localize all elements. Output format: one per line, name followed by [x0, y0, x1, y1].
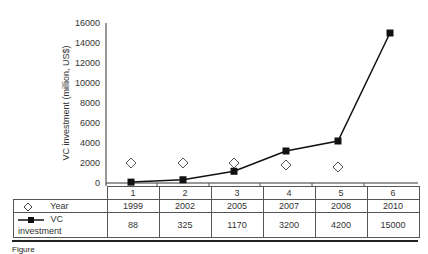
y-axis-ticks: 0200040006000800010000120001400016000: [75, 18, 100, 186]
y-tick-label: 8000: [80, 98, 100, 108]
open-diamond-icon: [18, 202, 48, 212]
table-cell: 4200: [315, 213, 367, 238]
square-marker: [387, 30, 394, 37]
diamond-marker: [281, 160, 291, 170]
y-tick-label: 10000: [75, 78, 100, 88]
square-marker: [283, 148, 290, 155]
data-table: 1 2 3 4 5 6 Year 1999 2002 2005 2007 200…: [13, 186, 420, 238]
vc-investment-line: [131, 33, 390, 182]
y-tick-label: 6000: [80, 118, 100, 128]
table-header-row: 1 2 3 4 5 6: [14, 187, 420, 200]
square-marker: [128, 179, 135, 186]
diamond-marker: [126, 158, 136, 168]
table-cell: 88: [107, 213, 159, 238]
y-tick-label: 0: [95, 178, 100, 186]
table-header-cell: 4: [263, 187, 315, 200]
table-cell: 1999: [107, 200, 159, 213]
y-tick-label: 12000: [75, 58, 100, 68]
table-header-cell: 3: [211, 187, 263, 200]
table-row: VC investment 88 325 1170 3200 4200 1500…: [14, 213, 420, 238]
table-cell: 2008: [315, 200, 367, 213]
table-cell: 15000: [367, 213, 419, 238]
square-marker: [231, 168, 238, 175]
table-cell: 325: [159, 213, 211, 238]
table-header-cell: 5: [315, 187, 367, 200]
table-cell: 2002: [159, 200, 211, 213]
table-cell: 1170: [211, 213, 263, 238]
line-square-marker-icon: [18, 215, 48, 225]
table-cell: 2010: [367, 200, 419, 213]
caption-divider: [12, 240, 418, 242]
table-cell: 3200: [263, 213, 315, 238]
table-header-cell: 1: [107, 187, 159, 200]
table-cell: 2007: [263, 200, 315, 213]
table-row: Year 1999 2002 2005 2007 2008 2010: [14, 200, 420, 213]
diamond-marker: [333, 162, 343, 172]
y-tick-label: 14000: [75, 38, 100, 48]
legend-label-year: Year: [50, 201, 68, 211]
square-marker: [180, 176, 187, 183]
y-tick-label: 4000: [80, 138, 100, 148]
figure-caption: Figure: [12, 245, 35, 254]
diamond-marker: [229, 158, 239, 168]
y-tick-label: 2000: [80, 158, 100, 168]
y-axis-label: VC investment (million, US$): [61, 45, 71, 160]
y-tick-label: 16000: [75, 18, 100, 28]
table-header-cell: 2: [159, 187, 211, 200]
table-cell: 2005: [211, 200, 263, 213]
square-marker: [335, 138, 342, 145]
diamond-marker: [178, 158, 188, 168]
table-header-cell: 6: [367, 187, 419, 200]
line-chart: VC investment (million, US$) 02000400060…: [0, 0, 428, 186]
